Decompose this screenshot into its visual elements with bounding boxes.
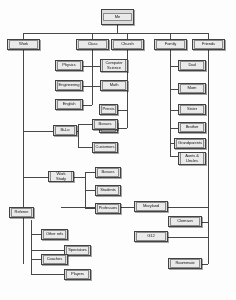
connector-me-down xyxy=(117,25,118,33)
node-me[interactable]: Me xyxy=(101,9,134,25)
connector-workstudy-stem xyxy=(74,177,85,178)
connector-church-priests xyxy=(118,110,127,111)
node-ws-bosses[interactable]: Bosses xyxy=(95,167,121,178)
connector-class-english xyxy=(83,105,92,106)
node-work[interactable]: Work xyxy=(7,39,40,50)
connector-class-engineering xyxy=(83,86,92,87)
node-brother-label: Brother xyxy=(180,123,204,131)
node-ws-professors-label: Professors xyxy=(97,204,119,212)
node-physics-label: Physics xyxy=(57,61,81,69)
node-clemson-label: Clemson xyxy=(170,217,200,225)
node-engineering[interactable]: Engineering xyxy=(55,80,83,91)
node-ws-bosses-label: Bosses xyxy=(97,168,119,176)
connector-friends-down2 xyxy=(208,207,209,222)
connector-friends-down4 xyxy=(208,237,209,264)
node-class-label: Class xyxy=(78,40,107,48)
connector-friends-down3 xyxy=(208,222,209,237)
node-work-label: Work xyxy=(9,40,38,48)
node-computer-science-label: Computer Science xyxy=(102,59,126,72)
node-ws-professors[interactable]: Professors xyxy=(95,203,121,214)
node-brother[interactable]: Brother xyxy=(178,122,206,133)
node-friends[interactable]: Friends xyxy=(192,39,225,50)
connector-friends-g12 xyxy=(168,237,208,238)
node-bilo-bosses-label: Bosses xyxy=(94,120,116,128)
node-priests-label: Priests xyxy=(101,105,116,113)
node-players[interactable]: Players xyxy=(64,269,91,280)
connector-ws-bosses xyxy=(85,172,95,173)
node-maryland-label: Maryland xyxy=(136,202,166,210)
node-family[interactable]: Family xyxy=(154,39,187,50)
connector-class-cs xyxy=(92,66,100,67)
connector-bilo-bosses xyxy=(78,124,92,125)
node-sister[interactable]: Sister xyxy=(178,104,206,115)
node-g12[interactable]: G12 xyxy=(134,231,168,242)
node-me-label: Me xyxy=(103,13,132,21)
node-sister-label: Sister xyxy=(180,105,204,113)
node-priests[interactable]: Priests xyxy=(99,104,118,115)
node-grandparents-label: Grandparents xyxy=(176,139,204,147)
node-work-study-label: Work Study xyxy=(50,171,72,182)
node-coaches-label: Coaches xyxy=(43,255,66,263)
node-bilo-bosses[interactable]: Bosses xyxy=(92,119,118,130)
node-math-label: Math xyxy=(102,81,126,89)
node-bilo-customers[interactable]: Customers xyxy=(92,142,118,153)
connector-family-dad xyxy=(170,66,178,67)
node-spectators-label: Spectators xyxy=(66,246,89,254)
node-family-label: Family xyxy=(156,40,185,48)
node-church-label: Church xyxy=(113,40,142,48)
node-physics[interactable]: Physics xyxy=(55,60,83,71)
org-chart-canvas: Me Work Class Church Family Friends Phys… xyxy=(0,0,236,300)
node-math[interactable]: Math xyxy=(100,80,128,91)
node-bilo[interactable]: Bi-Lo xyxy=(53,125,77,136)
connector-friends-trunk xyxy=(208,49,209,207)
node-work-study[interactable]: Work Study xyxy=(48,171,74,182)
node-players-label: Players xyxy=(66,270,89,278)
node-dad-label: Dad xyxy=(180,61,204,69)
node-english-label: English xyxy=(57,100,81,108)
node-coaches[interactable]: Coaches xyxy=(41,254,68,265)
node-roommate-label: Roommate xyxy=(170,259,200,267)
node-ws-students-label: Students xyxy=(97,186,119,194)
node-maryland[interactable]: Maryland xyxy=(134,201,168,212)
node-roommate[interactable]: Roommate xyxy=(168,258,202,269)
node-mom[interactable]: Mom xyxy=(178,83,206,94)
connector-top-bus xyxy=(23,33,208,34)
connector-family-brother xyxy=(170,128,178,129)
node-engineering-label: Engineering xyxy=(57,81,81,89)
connector-class-trunk xyxy=(92,49,93,105)
node-referee[interactable]: Referee xyxy=(9,207,34,218)
node-church[interactable]: Church xyxy=(111,39,144,50)
node-english[interactable]: English xyxy=(55,99,83,110)
node-aunts-uncles[interactable]: Aunts & Uncles xyxy=(178,152,206,165)
node-clemson[interactable]: Clemson xyxy=(168,216,202,227)
connector-family-mom xyxy=(170,89,178,90)
connector-class-physics xyxy=(83,66,92,67)
connector-family-sister xyxy=(170,110,178,111)
node-class[interactable]: Class xyxy=(76,39,109,50)
node-bilo-label: Bi-Lo xyxy=(55,126,75,134)
connector-work-bilo xyxy=(23,131,53,132)
connector-ws-students xyxy=(85,190,95,191)
connector-church-peers xyxy=(118,128,127,129)
node-aunts-uncles-label: Aunts & Uncles xyxy=(180,152,204,165)
node-ws-students[interactable]: Students xyxy=(95,185,121,196)
node-grandparents[interactable]: Grandparents xyxy=(174,138,206,149)
connector-bilo-trunk xyxy=(78,124,79,147)
node-computer-science[interactable]: Computer Science xyxy=(100,59,128,72)
node-dad[interactable]: Dad xyxy=(178,60,206,71)
node-referee-label: Referee xyxy=(11,208,32,216)
connector-ref-otherrefs xyxy=(31,234,41,235)
chart-inner-layer: Me Work Class Church Family Friends Phys… xyxy=(0,0,236,300)
node-other-refs[interactable]: Other refs xyxy=(41,229,68,240)
node-friends-label: Friends xyxy=(194,40,223,48)
node-spectators[interactable]: Spectators xyxy=(64,245,91,256)
connector-ws-professors xyxy=(85,208,95,209)
connector-class-math xyxy=(92,86,100,87)
node-other-refs-label: Other refs xyxy=(43,230,66,238)
connector-referee-trunk xyxy=(31,220,32,274)
node-g12-label: G12 xyxy=(136,232,166,240)
node-mom-label: Mom xyxy=(180,84,204,92)
connector-ref-coaches xyxy=(31,259,41,260)
connector-bilo-customers xyxy=(78,147,92,148)
connector-family-aunts xyxy=(170,156,178,157)
